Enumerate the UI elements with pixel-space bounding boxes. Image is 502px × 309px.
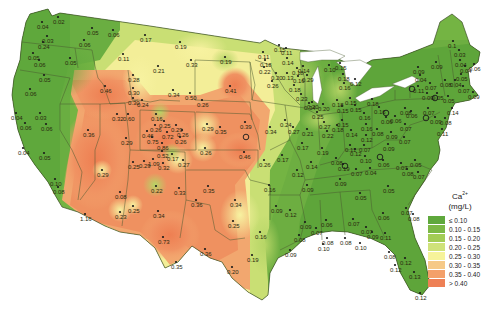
site-value-label: 0.16 (374, 109, 386, 115)
site-value-label: 0.18 (260, 62, 272, 68)
site-value-label: 0.19 (317, 150, 329, 156)
site-value-label: 0.08 (322, 240, 334, 246)
legend-item: 0.25 - 0.30 (428, 252, 498, 261)
legend-item: 0.10 - 0.15 (428, 225, 498, 234)
site-value-label: 0.03 (35, 115, 47, 121)
site-value-label: 0.18 (338, 76, 350, 82)
site-value-label: 0.27 (319, 124, 331, 130)
legend-swatch (428, 261, 445, 269)
site-value-label: 0.29 (121, 140, 133, 146)
site-value-label: 0.07 (351, 171, 363, 177)
site-value-label: 0.25 (128, 164, 140, 170)
site-value-label: 0.26 (175, 139, 187, 145)
site-value-label: 0.29 (302, 77, 314, 83)
site-value-label: 0.11 (118, 56, 130, 62)
site-value-label: 0.19 (175, 44, 187, 50)
site-value-label: 0.08 (115, 194, 127, 200)
site-value-label: 0.09 (431, 64, 443, 70)
site-value-label: 0.41 (225, 88, 237, 94)
site-value-label: 0.15 (337, 122, 349, 128)
site-value-label: 0.08 (372, 131, 384, 137)
site-value-label: 0.14 (282, 60, 294, 66)
site-value-label: 0.10 (360, 158, 372, 164)
site-value-label: 0.04 (11, 115, 23, 121)
legend-swatch (428, 270, 445, 278)
site-value-label: 0.18 (289, 87, 301, 93)
site-value-label: 0.05 (355, 195, 367, 201)
site-value-label: 0.06 (34, 62, 46, 68)
site-value-label: 0.06 (378, 215, 390, 221)
sample-site: 0.08 (322, 237, 334, 246)
legend-label: 0.15 - 0.20 (449, 235, 480, 242)
site-value-label: 0.02 (53, 19, 65, 25)
site-value-label: 0.23 (115, 214, 127, 220)
site-value-label: 0.12 (292, 172, 304, 178)
site-value-label: 0.26 (200, 150, 212, 156)
legend-title-base: Ca (452, 192, 462, 201)
site-value-label: 0.07 (348, 221, 360, 227)
site-value-label: 0.34 (230, 202, 242, 208)
site-value-label: 0.21 (302, 131, 314, 137)
site-value-label: 0.11 (258, 54, 270, 60)
legend-item: 0.35 - 0.40 (428, 270, 498, 279)
site-value-label: 0.16 (151, 116, 163, 122)
site-value-label: 0.05 (410, 162, 422, 168)
legend-swatch (428, 225, 445, 233)
legend-item: > 0.40 (428, 279, 498, 288)
site-value-label: 0.17 (277, 157, 289, 163)
site-value-label: 0.26 (197, 102, 209, 108)
site-value-label: 0.15 (337, 108, 349, 114)
site-value-label: 0.22 (322, 133, 334, 139)
legend-swatch (428, 216, 445, 224)
site-value-label: 0.07 (425, 85, 437, 91)
site-value-label: 0.86 (157, 145, 169, 151)
site-value-label: 0.08 (440, 120, 452, 126)
site-value-label: 0.08 (440, 82, 452, 88)
site-value-label: 0.04 (18, 150, 30, 156)
site-value-label: 0.08 (294, 237, 306, 243)
site-value-label: 0.35 (215, 129, 227, 135)
site-value-label: 0.17 (297, 145, 309, 151)
site-value-label: 0.22 (151, 188, 163, 194)
site-value-label: 0.05 (39, 155, 51, 161)
site-value-label: 0.05 (383, 188, 395, 194)
legend-swatch (428, 243, 445, 251)
site-value-label: 0.18 (367, 101, 379, 107)
site-value-label: 0.24 (280, 122, 292, 128)
site-value-label: 0.46 (239, 154, 251, 160)
site-value-label: 1.16 (80, 216, 92, 222)
site-value-label: 0.12 (285, 212, 297, 218)
legend-title: Ca2+ (422, 188, 498, 202)
site-value-label: 0.16 (264, 187, 276, 193)
site-value-label: 0.12 (350, 81, 362, 87)
site-value-label: 0.18 (332, 102, 344, 108)
site-value-label: 0.07 (400, 126, 412, 132)
site-value-label: 0.14 (447, 110, 459, 116)
site-value-label: 0.06 (79, 42, 91, 48)
site-value-label: 0.36 (191, 202, 203, 208)
site-value-label: 0.26 (177, 132, 189, 138)
site-value-label: 0.25 (312, 114, 324, 120)
legend-swatch (428, 279, 445, 287)
site-value-label: 0.12 (415, 295, 427, 301)
site-value-label: 0.06 (390, 118, 402, 124)
site-value-label: 0.12 (390, 267, 402, 273)
site-value-label: 0.06 (108, 32, 120, 38)
site-value-label: 0.34 (153, 213, 165, 219)
site-value-label: 0.26 (267, 83, 279, 89)
site-value-label: 0.21 (153, 68, 165, 74)
site-value-label: 0.29 (97, 172, 109, 178)
site-value-label: 0.24 (38, 44, 50, 50)
site-value-label: 0.39 (240, 124, 252, 130)
site-value-label: 0.04 (37, 24, 49, 30)
legend-label: 0.35 - 0.40 (449, 271, 480, 278)
site-value-label: 0.20 (318, 106, 330, 112)
site-value-label: 0.15 (345, 100, 357, 106)
legend-label: 0.30 - 0.35 (449, 262, 480, 269)
legend-item: 0.30 - 0.35 (428, 261, 498, 270)
site-value-label: 0.06 (41, 126, 53, 132)
site-value-label: 0.20 (227, 269, 239, 275)
legend-label: 0.25 - 0.30 (449, 253, 480, 260)
site-value-label: 0.52 (157, 153, 169, 159)
site-value-label: 0.04 (365, 170, 377, 176)
